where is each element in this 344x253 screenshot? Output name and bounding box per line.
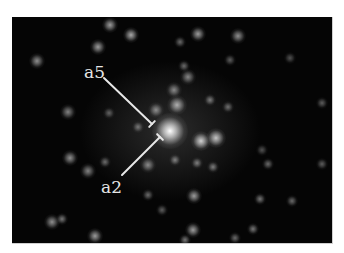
diffraction-image: a5 a2 xyxy=(12,17,333,244)
annotation-label-a2: a2 xyxy=(101,179,122,196)
annotation-line-a5 xyxy=(104,78,152,124)
annotation-lines xyxy=(12,17,332,243)
annotation-line-a2 xyxy=(122,137,160,175)
annotation-label-a5: a5 xyxy=(84,64,105,81)
